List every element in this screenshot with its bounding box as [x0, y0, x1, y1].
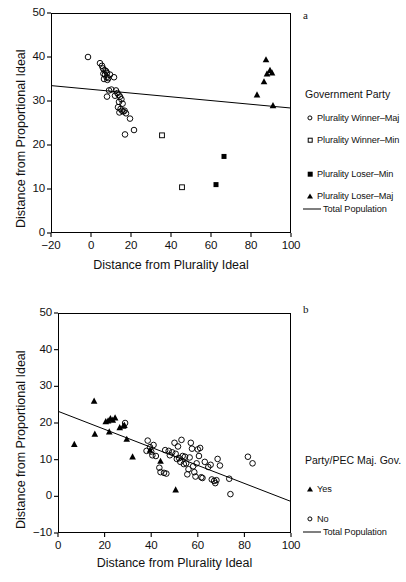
legend-item: Yes	[303, 483, 332, 495]
open-circle-icon	[303, 112, 317, 124]
legend-item-label: Plurality Loser–Min	[317, 169, 393, 179]
x-tick-label: 100	[271, 239, 311, 251]
data-point	[196, 453, 202, 459]
line-swatch-icon	[303, 526, 323, 538]
y-tick-label: 50	[12, 306, 52, 318]
data-point	[189, 446, 195, 452]
y-axis-title-a: Distance from Proportional Ideal	[14, 49, 28, 228]
data-point	[202, 459, 208, 465]
data-point	[91, 398, 98, 404]
x-tick-label: −20	[31, 239, 71, 251]
x-tick-label: 0	[71, 239, 111, 251]
legend-item-label: No	[317, 514, 329, 524]
data-point	[129, 453, 136, 459]
data-point	[131, 127, 137, 133]
legend-item: Total Population	[303, 526, 387, 538]
data-point	[145, 438, 151, 444]
data-point	[160, 133, 165, 138]
legend-item: Plurality Loser–Min	[303, 168, 393, 180]
panel-a: a 01020304050−20020406080100 Distance fr…	[0, 0, 406, 291]
data-point	[254, 91, 261, 97]
data-point	[217, 463, 223, 469]
data-point	[157, 458, 164, 464]
x-axis-title-a: Distance from Plurality Ideal	[51, 258, 291, 272]
data-point	[127, 116, 133, 122]
y-tick-label: 50	[5, 6, 45, 18]
x-tick-label: 100	[271, 539, 311, 551]
data-point	[270, 102, 277, 108]
legend-item-label: Plurality Winner–Maj	[317, 113, 399, 123]
data-point	[214, 182, 219, 187]
data-point	[215, 456, 221, 462]
x-tick-label: 0	[38, 539, 78, 551]
legend-item-label: Plurality Loser–Maj	[317, 191, 393, 201]
data-point	[71, 441, 78, 447]
data-point	[188, 440, 194, 446]
x-tick-label: 20	[85, 539, 125, 551]
x-tick-label: 40	[151, 239, 191, 251]
legend-item-label: Plurality Winner–Min	[317, 135, 399, 145]
filled-triangle-icon	[303, 483, 317, 495]
data-point	[250, 461, 256, 467]
data-point	[104, 94, 110, 100]
y-axis-title-b: Distance from Proportional Ideal	[14, 350, 28, 529]
data-point	[179, 437, 185, 443]
x-tick-label: 40	[131, 539, 171, 551]
legend-item-label: Yes	[317, 484, 332, 494]
legend-item-label: Total Population	[323, 527, 387, 537]
x-tick-label: 60	[178, 539, 218, 551]
data-point	[172, 440, 178, 446]
data-point	[153, 453, 159, 459]
filled-square-icon	[303, 168, 317, 180]
legend-title-a: Government Party	[305, 88, 390, 100]
filled-triangle-icon	[303, 190, 317, 202]
data-point	[180, 185, 185, 190]
legend-item: Plurality Loser–Maj	[303, 190, 393, 202]
data-point	[228, 491, 234, 497]
legend-item: No	[303, 513, 329, 525]
legend-title-b: Party/PEC Maj. Gov.	[305, 454, 401, 466]
legend-item: Plurality Winner–Maj	[303, 112, 399, 124]
data-point	[122, 132, 128, 138]
open-circle-icon	[303, 513, 317, 525]
line-swatch-icon	[303, 203, 323, 215]
legend-item: Plurality Winner–Min	[303, 134, 399, 146]
open-square-icon	[303, 134, 317, 146]
data-point	[263, 56, 270, 62]
data-point	[175, 444, 181, 450]
data-point	[261, 78, 268, 84]
x-tick-label: 80	[231, 239, 271, 251]
data-point	[222, 154, 227, 159]
data-point	[85, 54, 91, 60]
data-point	[91, 431, 98, 437]
panel-b: b −1001020304050020406080100 Distance fr…	[0, 291, 406, 582]
x-axis-title-b: Distance from Plurality Ideal	[58, 556, 291, 570]
x-tick-label: 80	[224, 539, 264, 551]
data-point	[245, 454, 251, 460]
regression-line	[58, 411, 291, 501]
data-point	[111, 74, 117, 80]
x-tick-label: 20	[111, 239, 151, 251]
data-point	[172, 486, 179, 492]
x-tick-label: 60	[191, 239, 231, 251]
legend-item: Total Population	[303, 203, 387, 215]
legend-item-label: Total Population	[323, 204, 387, 214]
